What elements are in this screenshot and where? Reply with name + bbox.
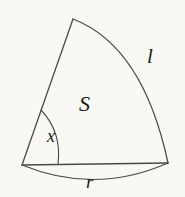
arc-length-label: l [147, 46, 153, 67]
radius-measure-arc [22, 163, 168, 180]
bottom-radius-line [22, 163, 168, 165]
angle-label: x [47, 127, 55, 145]
radius-label: r [86, 172, 93, 191]
area-label: S [79, 93, 90, 115]
sector-diagram-svg [0, 0, 185, 197]
geometry-figure: S l x r [0, 0, 185, 197]
